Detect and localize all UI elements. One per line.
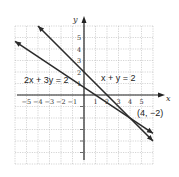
- equation-label-2x-3y: 2x + 3y = 2: [24, 75, 69, 85]
- y-tick-label: 5: [77, 34, 81, 42]
- y-tick-label: 3: [77, 57, 81, 65]
- y-axis-label: y: [72, 15, 78, 24]
- y-axis-arrow-icon: [82, 16, 87, 23]
- intersection-label: (4, −2): [137, 108, 163, 118]
- y-tick-label: 4: [77, 46, 81, 54]
- x-tick-label: −5: [22, 98, 32, 106]
- tick-labels: −5−4−3−2−11234554321: [22, 34, 144, 153]
- x-tick-label: −1: [68, 98, 78, 106]
- x-tick-label: 4: [128, 98, 132, 106]
- x-tick-label: 5: [140, 98, 144, 106]
- x-axis-arrow-icon: [158, 93, 165, 98]
- linear-system-graph: −5−4−3−2−11234554321 y x 2x + 3y = 2 x +…: [0, 0, 179, 177]
- x-tick-label: −2: [56, 98, 66, 106]
- x-tick-label: −4: [33, 98, 43, 106]
- x-tick-label: −3: [45, 98, 55, 106]
- x-tick-label: 1: [94, 98, 98, 106]
- y-tick-label: 2: [77, 69, 81, 77]
- equation-label-x-y: x + y = 2: [101, 73, 136, 83]
- x-axis-label: x: [166, 94, 171, 103]
